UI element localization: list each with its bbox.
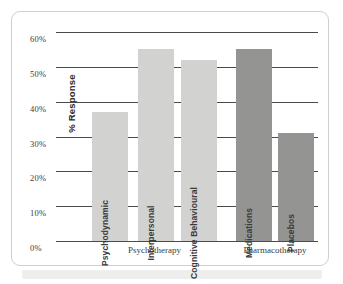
- plot-area: PsychodynamicInterpersonalCognitive Beha…: [70, 32, 318, 241]
- bar-psychodynamic: Psychodynamic: [92, 112, 128, 241]
- y-tick-stub-60: [56, 32, 70, 33]
- y-tick-stub-10: [56, 206, 70, 207]
- y-tick-label-20: 20%: [30, 173, 70, 183]
- y-tick-stub-40: [56, 102, 70, 103]
- y-tick-label-10: 10%: [30, 208, 70, 218]
- bar-interpersonal: Interpersonal: [138, 49, 174, 241]
- card-shadow: [22, 270, 322, 279]
- y-tick-label-50: 50%: [30, 69, 70, 79]
- bar-cognitive-behavioural: Cognitive Behavioural: [181, 60, 217, 241]
- y-tick-label-40: 40%: [30, 104, 70, 114]
- figure-card: % Response 60%50%40%30%20%10%0% Psychody…: [11, 11, 329, 266]
- y-tick-label-60: 60%: [30, 34, 70, 44]
- bar-medications: Medications: [236, 49, 272, 241]
- y-tick-label-0: 0%: [30, 243, 70, 253]
- y-tick-stub-50: [56, 67, 70, 68]
- bar-label-psychodynamic: Psychodynamic: [100, 200, 110, 266]
- group-label-pharmacotherapy: Pharmacotherapy: [236, 245, 314, 255]
- gridline-60: [70, 32, 318, 33]
- y-tick-stub-20: [56, 171, 70, 172]
- y-tick-stub-30: [56, 137, 70, 138]
- y-tick-label-30: 30%: [30, 139, 70, 149]
- bar-label-cognitive-behavioural: Cognitive Behavioural: [189, 187, 199, 279]
- bar-placebos: Placebos: [278, 133, 314, 241]
- y-tick-stub-0: [56, 241, 70, 242]
- group-label-psychotherapy: Psychotherapy: [92, 245, 217, 255]
- bar-chart: % Response 60%50%40%30%20%10%0% Psychody…: [12, 12, 330, 267]
